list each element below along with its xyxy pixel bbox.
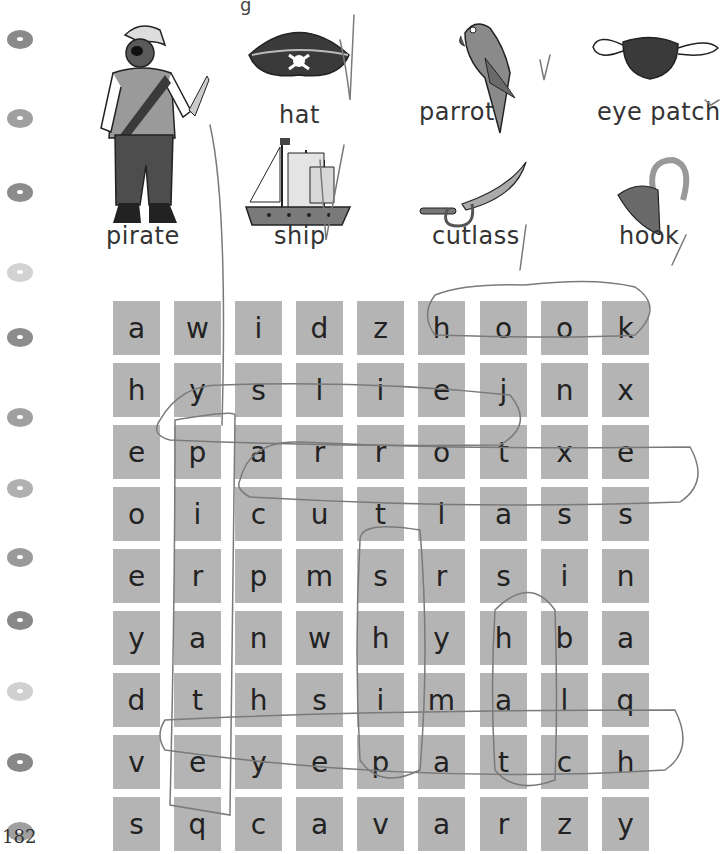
grid-cell: d (113, 673, 160, 727)
grid-cell: h (480, 611, 527, 665)
grid-cell: l (418, 487, 465, 541)
grid-cell: d (296, 301, 343, 355)
binder-hole (7, 753, 33, 772)
grid-cell: z (541, 797, 588, 851)
pirate-icon (85, 15, 215, 235)
binder-hole (7, 30, 33, 49)
grid-cell: r (357, 425, 404, 479)
word-pirate: pirate (106, 222, 180, 250)
grid-cell: h (602, 735, 649, 789)
pirate-hat-icon (244, 25, 354, 80)
grid-cell: l (541, 673, 588, 727)
grid-cell: z (357, 301, 404, 355)
header-fragment: g (240, 0, 251, 15)
grid-cell: h (357, 611, 404, 665)
binder-hole (7, 479, 33, 498)
grid-cell: n (235, 611, 282, 665)
grid-cell: o (113, 487, 160, 541)
grid-cell: c (235, 797, 282, 851)
grid-cell: e (602, 425, 649, 479)
grid-cell: a (418, 797, 465, 851)
grid-cell: o (418, 425, 465, 479)
grid-cell: c (235, 487, 282, 541)
word-ship: ship (274, 222, 326, 250)
grid-cell: h (113, 363, 160, 417)
grid-cell: p (235, 549, 282, 603)
grid-cell: v (357, 797, 404, 851)
word-eye-patch: eye patch (597, 98, 721, 126)
grid-cell: e (418, 363, 465, 417)
grid-cell: s (113, 797, 160, 851)
grid-cell: a (480, 487, 527, 541)
binder-hole (7, 263, 33, 282)
grid-cell: w (174, 301, 221, 355)
grid-cell: e (296, 735, 343, 789)
word-hat: hat (279, 101, 320, 129)
grid-cell: x (541, 425, 588, 479)
eye-patch-icon (588, 30, 723, 85)
binder-hole (7, 183, 33, 202)
grid-cell: a (602, 611, 649, 665)
grid-cell: u (296, 487, 343, 541)
word-hook: hook (619, 222, 679, 250)
grid-cell: w (296, 611, 343, 665)
grid-cell: e (113, 549, 160, 603)
grid-cell: a (296, 797, 343, 851)
grid-cell: s (480, 549, 527, 603)
page-number: 182 (2, 826, 36, 847)
grid-cell: a (174, 611, 221, 665)
binder-hole (7, 408, 33, 427)
grid-cell: s (357, 549, 404, 603)
grid-cell: y (418, 611, 465, 665)
grid-cell: q (602, 673, 649, 727)
grid-cell: s (602, 487, 649, 541)
grid-cell: q (174, 797, 221, 851)
grid-cell: h (235, 673, 282, 727)
grid-cell: t (480, 735, 527, 789)
grid-cell: v (113, 735, 160, 789)
cutlass-icon (418, 160, 533, 230)
grid-cell: i (235, 301, 282, 355)
grid-cell: i (174, 487, 221, 541)
grid-cell: t (174, 673, 221, 727)
grid-cell: r (480, 797, 527, 851)
binder-hole (7, 611, 33, 630)
binder-hole (7, 548, 33, 567)
ship-icon (244, 135, 354, 235)
grid-cell: j (480, 363, 527, 417)
binder-hole (7, 109, 33, 128)
grid-cell: x (602, 363, 649, 417)
grid-cell: s (541, 487, 588, 541)
grid-cell: e (174, 735, 221, 789)
binder-hole (7, 328, 33, 347)
grid-cell: t (357, 487, 404, 541)
grid-cell: k (602, 301, 649, 355)
word-cutlass: cutlass (432, 222, 520, 250)
grid-cell: a (235, 425, 282, 479)
grid-cell: i (541, 549, 588, 603)
grid-cell: i (357, 673, 404, 727)
grid-cell: o (480, 301, 527, 355)
grid-cell: o (541, 301, 588, 355)
word-parrot: parrot (419, 98, 495, 126)
grid-cell: e (113, 425, 160, 479)
grid-cell: y (113, 611, 160, 665)
grid-cell: y (174, 363, 221, 417)
grid-cell: r (296, 425, 343, 479)
grid-cell: y (602, 797, 649, 851)
grid-cell: a (480, 673, 527, 727)
grid-cell: y (235, 735, 282, 789)
grid-cell: b (541, 611, 588, 665)
grid-cell: p (174, 425, 221, 479)
grid-cell: p (357, 735, 404, 789)
grid-cell: i (357, 363, 404, 417)
grid-cell: m (296, 549, 343, 603)
grid-cell: t (480, 425, 527, 479)
grid-cell: r (418, 549, 465, 603)
grid-cell: r (174, 549, 221, 603)
grid-cell: a (113, 301, 160, 355)
grid-cell: c (541, 735, 588, 789)
grid-cell: l (296, 363, 343, 417)
grid-cell: m (418, 673, 465, 727)
grid-cell: n (602, 549, 649, 603)
